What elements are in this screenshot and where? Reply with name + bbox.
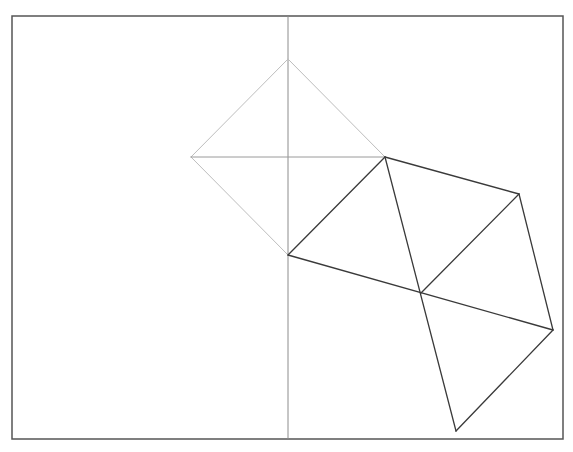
edge-e-g-line xyxy=(519,194,553,330)
edge-g-h-line xyxy=(456,330,553,431)
geometry-diagram xyxy=(0,0,573,452)
diagonal-e-f-line xyxy=(421,194,519,293)
edge-c-h-line xyxy=(385,157,456,431)
edge-a-b-line xyxy=(191,59,288,157)
diagonal-c-d-line xyxy=(288,157,385,255)
edge-c-e-line xyxy=(385,157,519,194)
edge-a-c-line xyxy=(288,59,385,157)
edge-b-d-line xyxy=(191,157,288,255)
segment-group xyxy=(191,59,553,431)
